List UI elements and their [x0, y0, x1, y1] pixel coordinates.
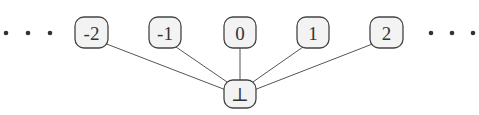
node-1: 1: [297, 17, 329, 48]
node-2: 2: [370, 17, 403, 48]
node-minus2: -2: [75, 17, 108, 48]
left-ellipsis: [4, 31, 53, 36]
edge-bottom-to-minus2: [104, 43, 226, 90]
node-minus1: -1: [149, 17, 181, 48]
flat-lattice-diagram: -2 -1 0 1 2 ⊥: [0, 0, 479, 115]
node-label: 2: [382, 23, 392, 44]
node-bottom: ⊥: [224, 80, 256, 108]
edge-bottom-to-1: [250, 47, 303, 84]
node-label: 1: [308, 23, 318, 44]
node-label: 0: [235, 23, 245, 44]
bottom-symbol: ⊥: [231, 84, 249, 105]
edge-bottom-to-2: [254, 43, 375, 90]
edge-bottom-to-minus1: [176, 47, 230, 84]
node-label: -2: [84, 23, 100, 44]
node-0: 0: [224, 17, 256, 48]
node-label: -1: [157, 23, 173, 44]
right-ellipsis: [429, 31, 476, 36]
